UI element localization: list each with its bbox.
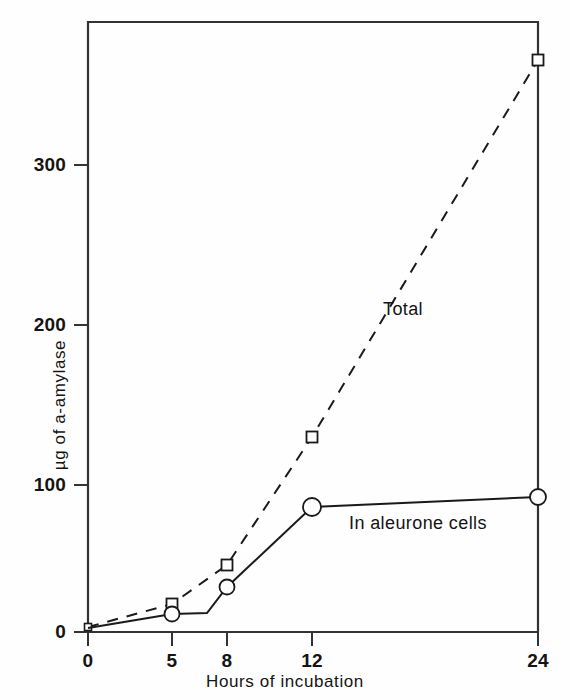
x-tick-label-8: 8 — [222, 650, 233, 672]
series-label-total: Total — [383, 299, 423, 320]
y-tick-label-300: 300 — [0, 154, 66, 176]
aleurone-marker-24h — [530, 489, 546, 505]
total-marker-24h — [533, 55, 544, 66]
aleurone-marker-8h — [220, 580, 235, 595]
y-tick-marks — [74, 165, 88, 632]
x-tick-label-24: 24 — [527, 650, 549, 672]
total-marker-8h — [222, 560, 233, 571]
amylase-incubation-chart: 0 100 200 300 0 5 8 12 24 µg of a-amylas… — [0, 0, 570, 700]
x-tick-label-12: 12 — [301, 650, 323, 672]
series-total — [85, 55, 544, 631]
y-tick-label-0: 0 — [0, 621, 66, 643]
x-axis-title: Hours of incubation — [0, 672, 570, 692]
frame-spines — [88, 22, 538, 632]
total-dashed-line — [88, 60, 538, 627]
y-axis-title: µg of a-amylase — [50, 305, 70, 505]
series-label-in-aleurone-cells: In aleurone cells — [349, 513, 487, 534]
plot-frame — [88, 22, 538, 632]
x-tick-marks — [88, 632, 538, 646]
aleurone-marker-5h — [165, 607, 180, 622]
aleurone-marker-12h — [303, 498, 321, 516]
x-tick-label-5: 5 — [167, 650, 178, 672]
x-tick-label-0: 0 — [83, 650, 94, 672]
total-marker-12h — [307, 432, 318, 443]
chart-canvas — [0, 0, 570, 700]
series-in-aleurone-cells — [88, 489, 546, 628]
